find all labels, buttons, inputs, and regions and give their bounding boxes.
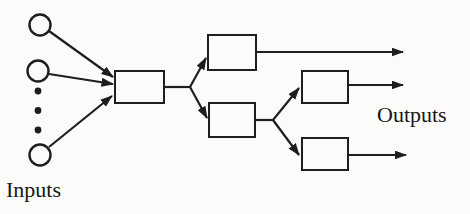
diagram-canvas: Inputs Outputs xyxy=(0,0,470,214)
inputs-label: Inputs xyxy=(6,177,61,202)
branch-arrow-down-1 xyxy=(190,87,207,118)
branch-arrow-up-1 xyxy=(190,58,206,87)
ellipsis-dot-1 xyxy=(35,88,42,95)
process-box-2 xyxy=(208,35,256,70)
input-node-n xyxy=(30,145,51,166)
process-box-4 xyxy=(302,71,348,103)
input-node-2 xyxy=(28,61,49,82)
input-arrow-2 xyxy=(49,74,113,84)
input-arrow-1 xyxy=(49,31,113,77)
ellipsis-dot-3 xyxy=(35,127,42,134)
branch-arrow-up-2 xyxy=(273,88,299,120)
ellipsis-dot-2 xyxy=(35,107,42,114)
branch-arrow-down-2 xyxy=(273,120,299,155)
network-diagram-figure: Inputs Outputs xyxy=(0,0,470,214)
process-box-3 xyxy=(209,103,255,137)
input-arrow-3 xyxy=(49,96,112,147)
process-box-1 xyxy=(115,71,164,103)
process-box-5 xyxy=(302,138,348,170)
input-node-1 xyxy=(30,15,51,36)
outputs-label: Outputs xyxy=(377,102,447,127)
